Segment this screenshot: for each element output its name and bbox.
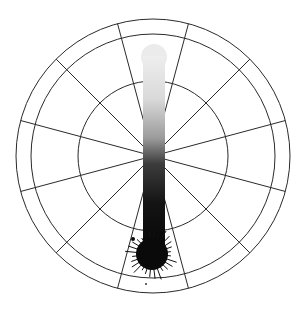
polar-diagram <box>0 0 304 312</box>
spoke-line <box>21 121 153 156</box>
ink-drop <box>145 283 147 285</box>
ink-drop <box>131 237 135 241</box>
spoke-line <box>153 156 285 191</box>
spoke-line <box>56 59 153 156</box>
spoke-line <box>21 156 153 191</box>
spoke-line <box>153 121 285 156</box>
spoke-line <box>56 156 153 253</box>
ink-stroke-body <box>143 56 165 252</box>
spoke-line <box>153 59 250 156</box>
bottom-ink-blob <box>136 238 168 270</box>
